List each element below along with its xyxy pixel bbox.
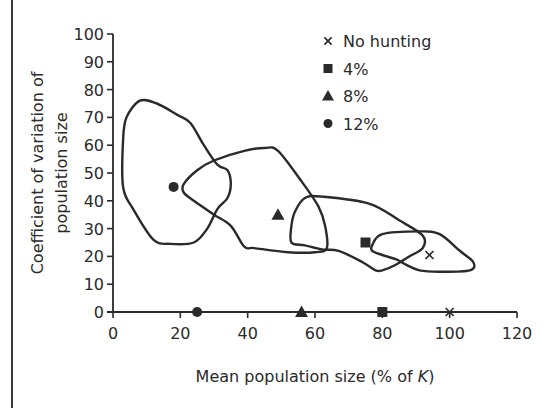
square-marker-icon [377, 307, 387, 317]
legend: No hunting4%8%12% [322, 32, 431, 134]
y-tick-label: 90 [84, 53, 104, 72]
x-axis-ticks: 020406080100120 [108, 312, 532, 343]
y-tick-label: 70 [84, 108, 104, 127]
x-tick-label: 20 [170, 324, 190, 343]
x-axis-title: Mean population size (% of K) [196, 367, 435, 386]
y-tick-label: 100 [73, 25, 104, 44]
circle-marker-icon [169, 182, 179, 192]
x-axis-title-suffix: ) [428, 367, 434, 386]
circle-marker-icon [192, 307, 202, 317]
legend-item: 8% [322, 87, 368, 106]
y-tick-label: 50 [84, 164, 104, 183]
circle-marker-icon [324, 119, 333, 128]
legend-item: 12% [324, 115, 379, 134]
envelope-square [290, 196, 425, 271]
marker-layer [169, 182, 454, 317]
y-tick-label: 80 [84, 81, 104, 100]
y-axis-title-line-1: Coefficient of variation of [28, 71, 47, 274]
triangle-marker-icon [271, 208, 284, 220]
envelope-circle [122, 100, 231, 245]
envelope-triangle [182, 147, 327, 252]
legend-item: No hunting [324, 32, 431, 51]
y-tick-label: 0 [94, 303, 104, 322]
y-axis-title-line-2: population size [52, 112, 71, 233]
legend-label: 12% [343, 115, 379, 134]
x-tick-label: 100 [434, 324, 465, 343]
x-tick-label: 0 [108, 324, 118, 343]
scatter-chart: 0102030405060708090100 020406080100120 N… [0, 0, 555, 408]
y-tick-label: 40 [84, 192, 104, 211]
y-axis-ticks: 0102030405060708090100 [73, 25, 113, 322]
cross-marker-icon [425, 251, 433, 259]
legend-label: No hunting [343, 32, 431, 51]
y-tick-label: 60 [84, 136, 104, 155]
x-tick-label: 80 [372, 324, 392, 343]
x-axis-title-prefix: Mean population size (% of [196, 367, 418, 386]
y-tick-label: 20 [84, 247, 104, 266]
square-marker-icon [361, 238, 371, 248]
triangle-marker-icon [322, 90, 334, 101]
legend-item: 4% [324, 60, 369, 79]
y-axis-title: Coefficient of variation of population s… [28, 71, 71, 274]
y-tick-label: 30 [84, 220, 104, 239]
legend-label: 4% [343, 60, 368, 79]
y-tick-label: 10 [84, 275, 104, 294]
x-tick-label: 40 [237, 324, 257, 343]
x-tick-label: 60 [305, 324, 325, 343]
x-tick-label: 120 [502, 324, 533, 343]
square-marker-icon [324, 64, 333, 73]
legend-label: 8% [343, 87, 368, 106]
cross-marker-icon [324, 37, 331, 44]
